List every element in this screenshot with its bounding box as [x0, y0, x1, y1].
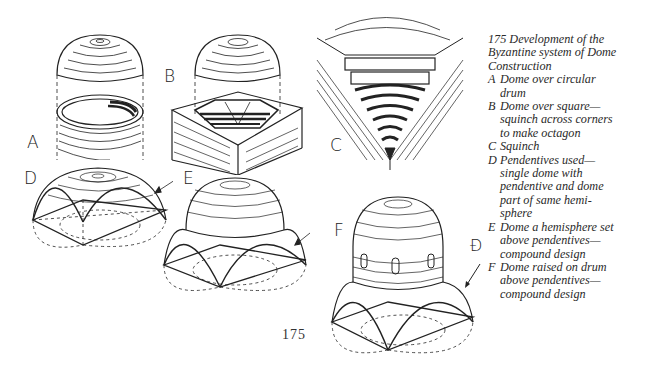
page-number: 175 — [282, 327, 306, 343]
caption-title-line-2: Byzantine system of Dome — [488, 46, 646, 59]
figure-b-label: B — [164, 66, 175, 86]
caption-text-e-1: Dome a hemisphere set — [500, 220, 614, 234]
figure-e-label: E — [183, 168, 194, 188]
figure-e-compound-dome — [160, 175, 310, 310]
caption-item-d: DPendentives used— single dome with pend… — [488, 154, 646, 221]
caption-text-d-3: pendentive and dome — [488, 180, 646, 193]
caption-title-line-1: 175 Development of the — [488, 33, 646, 46]
caption-text-d-4: part of same hemi- — [488, 194, 646, 207]
figure-a-label: A — [27, 132, 39, 152]
caption-text-b-2: squinch across corners — [488, 113, 646, 126]
caption-item-e: EDome a hemisphere set above pendentives… — [488, 221, 646, 261]
caption-key-c: C — [488, 140, 500, 153]
caption-text-d-5: sphere — [488, 207, 646, 220]
caption-text-b-1: Dome over square— — [500, 99, 600, 113]
figure-d-label: D — [24, 168, 37, 188]
caption-text-c-1: Squinch — [500, 139, 539, 153]
caption-key-e: E — [488, 221, 500, 234]
caption-text-e-2: above pendentives— — [488, 234, 646, 247]
caption-text-f-3: compound design — [488, 288, 646, 301]
caption-key-f: F — [488, 261, 500, 274]
caption-text-f-1: Dome raised on drum — [500, 260, 607, 274]
figure-c-label: C — [330, 135, 342, 155]
caption-title-line-3: Construction — [488, 60, 646, 73]
caption-item-a: ADome over circular drum — [488, 73, 646, 100]
caption-item-f: FDome raised on drum above pendentives— … — [488, 261, 646, 301]
caption-key-d: D — [488, 154, 500, 167]
caption-text-e-3: compound design — [488, 248, 646, 261]
annotation-symbol: Ɖ — [470, 236, 482, 255]
caption-key-b: B — [488, 100, 500, 113]
caption-text-a-2: drum — [488, 87, 646, 100]
caption-key-a: A — [488, 73, 500, 86]
figure-b-dome-over-square — [170, 30, 305, 175]
caption-text-f-2: above pendentives— — [488, 274, 646, 287]
figure-d-pendentive-dome — [28, 165, 173, 275]
figure-f-drum-dome — [328, 192, 478, 372]
caption-text-a-1: Dome over circular — [500, 72, 596, 86]
caption-item-c: CSquinch — [488, 140, 646, 153]
figure-caption: 175 Development of the Byzantine system … — [488, 33, 646, 301]
caption-text-b-3: to make octagon — [488, 127, 646, 140]
caption-text-d-1: Pendentives used— — [500, 153, 595, 167]
caption-item-b: BDome over square— squinch across corner… — [488, 100, 646, 140]
annotation-arrow-icon — [462, 262, 482, 292]
figure-f-label: F — [334, 220, 344, 240]
figure-a-dome-over-drum — [50, 30, 150, 160]
caption-text-d-2: single dome with — [488, 167, 646, 180]
